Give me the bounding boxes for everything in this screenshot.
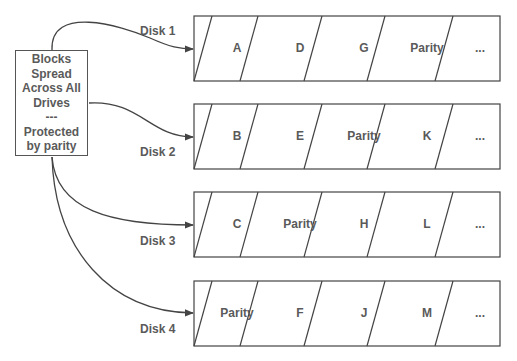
disk-3-block: Parity — [283, 217, 316, 231]
disk-1-block: Parity — [410, 41, 443, 55]
disk-label-3: Disk 3 — [140, 234, 175, 248]
disk-1-block: G — [359, 41, 368, 55]
source-line: --- — [46, 110, 58, 125]
source-line: Across All — [22, 81, 81, 96]
source-line: Drives — [33, 96, 70, 111]
disk-3-block: ... — [475, 217, 485, 231]
source-line: Protected — [24, 125, 79, 140]
disk-4-block: Parity — [220, 306, 253, 320]
disk-2-block: ... — [475, 129, 485, 143]
disk-4-block: ... — [475, 306, 485, 320]
disk-2-block: Parity — [347, 129, 380, 143]
disk-3-block: C — [233, 217, 242, 231]
disk-4-block: J — [361, 306, 368, 320]
disk-3-block: H — [360, 217, 369, 231]
disk-label-2: Disk 2 — [140, 145, 175, 159]
disk-4-block: M — [422, 306, 432, 320]
disk-1-block: ... — [475, 41, 485, 55]
source-line: Spread — [31, 67, 72, 82]
disk-4-block: F — [296, 306, 303, 320]
disk-label-4: Disk 4 — [140, 322, 175, 336]
disk-2-block: E — [296, 129, 304, 143]
arrow-disk3 — [52, 157, 193, 225]
disk-3-block: L — [423, 217, 430, 231]
source-line: Blocks — [32, 52, 71, 67]
disk-2-block: B — [233, 129, 242, 143]
disk-label-1: Disk 1 — [140, 24, 175, 38]
disk-1-block: D — [296, 41, 305, 55]
source-box: Blocks Spread Across All Drives --- Prot… — [15, 50, 88, 156]
disk-2-block: K — [423, 129, 432, 143]
disk-1-block: A — [233, 41, 242, 55]
source-line: by parity — [26, 139, 76, 154]
arrow-disk2 — [89, 103, 193, 137]
